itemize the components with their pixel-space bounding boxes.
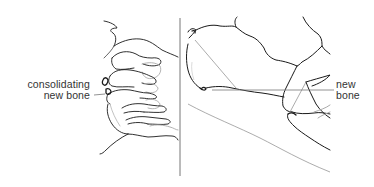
anatomical-diagram: consolidating new bone new bone [0,0,374,187]
right-panel-drawing [187,17,331,150]
right-panel-guides [188,40,330,172]
label-left-line2: new bone [27,90,90,101]
label-right-line2: bone [336,90,360,101]
label-new-bone: new bone [336,79,360,101]
label-consolidating-new-bone: consolidating new bone [27,79,90,101]
left-leader-line [94,94,105,95]
left-panel-drawing [100,21,178,154]
